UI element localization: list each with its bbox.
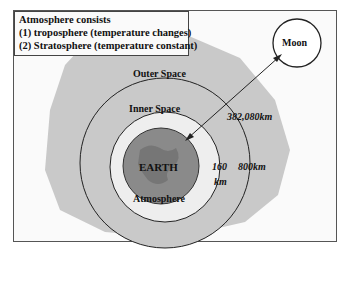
earth-label: EARTH (139, 161, 178, 173)
legend-box: Atmosphere consists (1) troposphere (tem… (14, 11, 189, 56)
legend-item-stratosphere: (2) Stratosphere (temperature constant) (19, 39, 184, 52)
inner-distance-label: 160 (212, 161, 227, 172)
outer-distance-label: 800km (238, 161, 266, 172)
legend-title: Atmosphere consists (19, 13, 184, 26)
inner-space-label: Inner Space (129, 103, 180, 114)
moon-distance-label: 382,080km (227, 111, 272, 122)
atmosphere-label: Atmosphere (133, 193, 185, 204)
moon-label: Moon (282, 37, 307, 48)
inner-distance-unit: km (214, 176, 227, 187)
legend-item-troposphere: (1) troposphere (temperature changes) (19, 26, 184, 39)
outer-space-label: Outer Space (133, 68, 186, 79)
